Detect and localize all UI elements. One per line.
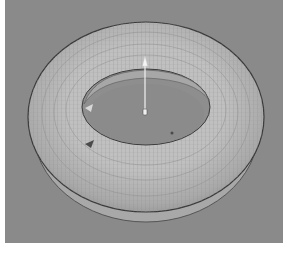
torus-hole — [82, 69, 210, 145]
surface-artifact — [171, 132, 174, 135]
3d-viewport[interactable] — [5, 0, 283, 243]
gizmo-pivot-handle[interactable] — [143, 109, 147, 115]
scene-render — [5, 0, 283, 243]
